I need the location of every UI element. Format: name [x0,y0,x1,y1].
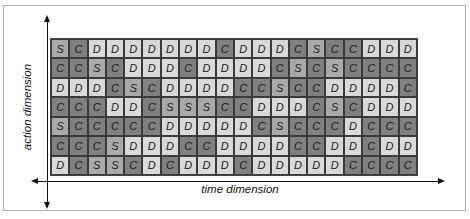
grid-cell: D [161,58,179,77]
grid-cell: C [69,58,87,77]
grid-cell: S [88,58,106,77]
grid-cell: C [380,156,398,175]
grid-cell: D [234,117,252,136]
grid-cell: C [216,97,234,116]
grid-cell: D [216,117,234,136]
grid-cell: C [307,78,325,97]
grid-cell: C [124,117,142,136]
arrow-up-icon [44,15,50,22]
action-axis-line [47,20,48,205]
grid-cell: C [106,58,124,77]
grid-cell: D [161,78,179,97]
grid-cell: D [197,58,215,77]
grid-cell: D [51,156,69,175]
grid-cell: C [289,117,307,136]
grid-cell: D [325,78,343,97]
grid-cell: C [344,58,362,77]
grid-cell: C [142,117,160,136]
grid-cell: C [380,117,398,136]
strategy-grid: SCDDDDDDDCDDDCSCCDDDCCSCDDDCDDDDCSCSCCCC… [50,38,418,176]
grid-cell: S [106,136,124,155]
grid-cell: C [307,136,325,155]
grid-cell: C [362,156,380,175]
grid-cell: D [344,117,362,136]
grid-cell: C [69,117,87,136]
grid-cell: C [289,136,307,155]
grid-cell: C [325,117,343,136]
grid-cell: D [362,78,380,97]
grid-cell: D [106,97,124,116]
grid-cell: D [179,117,197,136]
grid-cell: D [234,58,252,77]
grid-cell: D [271,156,289,175]
grid-cell: S [88,156,106,175]
grid-cell: D [51,78,69,97]
grid-cell: S [271,117,289,136]
grid-cell: D [252,58,270,77]
grid-cell: S [51,117,69,136]
grid-cell: D [344,136,362,155]
grid-cell: D [325,156,343,175]
grid-cell: C [234,97,252,116]
grid-cell: C [399,117,417,136]
grid-cell: D [179,39,197,58]
grid-cell: C [344,156,362,175]
grid-cell: C [51,97,69,116]
grid-cell: D [399,136,417,155]
grid-cell: D [252,97,270,116]
grid-cell: S [325,97,343,116]
grid-cell: S [307,39,325,58]
grid-cell: C [142,97,160,116]
grid-cell: C [307,58,325,77]
grid-cell: C [88,97,106,116]
grid-cell: C [88,136,106,155]
grid-cell: D [179,78,197,97]
grid-cell: D [124,97,142,116]
grid-cell: C [399,78,417,97]
grid-cell: D [252,136,270,155]
grid-cell: C [344,97,362,116]
grid-cell: S [179,97,197,116]
grid-cell: D [216,156,234,175]
grid-cell: C [69,136,87,155]
grid-cell: C [179,58,197,77]
grid-cell: D [197,78,215,97]
grid-cell: D [69,78,87,97]
grid-cell: C [307,97,325,116]
grid-cell: C [289,78,307,97]
grid-cell: C [234,156,252,175]
grid-cell: D [216,136,234,155]
grid-cell: C [124,156,142,175]
grid-cell: C [399,156,417,175]
grid-cell: S [124,78,142,97]
grid-cell: S [106,156,124,175]
grid-cell: C [51,136,69,155]
grid-cell: D [380,97,398,116]
grid-cell: S [289,58,307,77]
grid-cell: C [362,136,380,155]
grid-cell: D [399,97,417,116]
grid-cell: D [380,39,398,58]
grid-cell: C [380,58,398,77]
grid-cell: D [161,39,179,58]
y-axis-label: action dimension [21,64,33,150]
grid-cell: C [106,78,124,97]
grid-cell: D [344,78,362,97]
grid-cell: C [51,58,69,77]
grid-cell: C [179,136,197,155]
grid-cell: D [197,117,215,136]
grid-cell: C [252,78,270,97]
grid-cell: D [161,117,179,136]
grid-cell: C [289,39,307,58]
grid-cell: D [197,156,215,175]
grid-cell: C [69,97,87,116]
grid-cell: C [307,117,325,136]
grid-cell: S [161,97,179,116]
grid-cell: C [271,58,289,77]
grid-cell: S [51,39,69,58]
grid-cell: C [362,117,380,136]
x-axis-label: time dimension [150,183,330,195]
grid-cell: D [88,78,106,97]
grid-cell: D [380,136,398,155]
arrow-right-icon [438,178,445,184]
